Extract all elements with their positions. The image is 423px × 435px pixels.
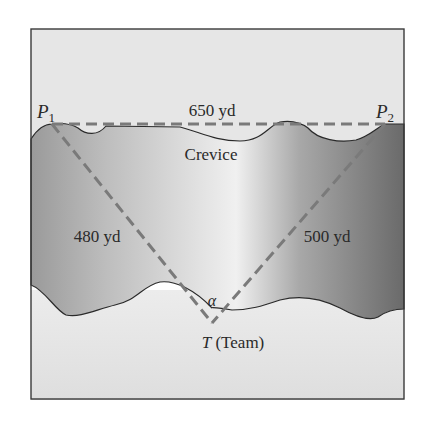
label-angle-alpha: α	[208, 292, 217, 309]
crevice-triangle-diagram: P1 P2 650 yd Crevice 480 yd 500 yd α T (…	[0, 0, 423, 435]
label-crevice: Crevice	[185, 145, 238, 164]
label-team: T (Team)	[202, 333, 265, 352]
label-distance-p1-p2: 650 yd	[189, 101, 236, 120]
label-distance-p1-t: 480 yd	[74, 227, 121, 246]
label-distance-p2-t: 500 yd	[304, 227, 351, 246]
